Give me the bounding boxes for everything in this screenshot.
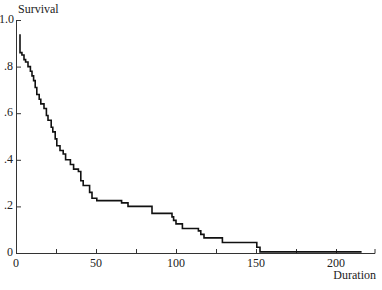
y-tick-label: 1.0 bbox=[0, 12, 14, 27]
y-tick-label: .6 bbox=[0, 105, 13, 120]
y-tick-label: .8 bbox=[0, 59, 13, 74]
x-tick-label: 0 bbox=[1, 256, 31, 271]
x-tick-label: 200 bbox=[321, 256, 351, 271]
y-axis-label: Survival bbox=[18, 2, 59, 17]
axes bbox=[16, 20, 375, 254]
survival-chart: Survival Duration 0.2.4.6.81.0 050100150… bbox=[0, 0, 382, 290]
x-tick-label: 100 bbox=[161, 256, 191, 271]
y-tick-label: .2 bbox=[0, 198, 13, 213]
x-tick-label: 150 bbox=[241, 256, 271, 271]
survival-step-line bbox=[19, 35, 361, 252]
plot-area bbox=[0, 0, 382, 290]
x-tick-label: 50 bbox=[81, 256, 111, 271]
y-tick-label: .4 bbox=[0, 152, 13, 167]
